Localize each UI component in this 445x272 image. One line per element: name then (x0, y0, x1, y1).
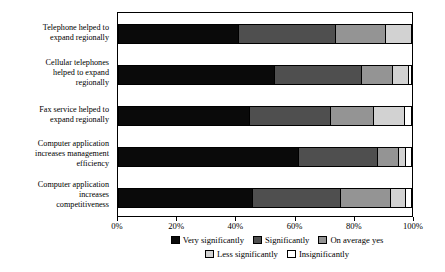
bar-segment (239, 24, 336, 44)
legend-swatch-icon (253, 236, 262, 244)
category-label-line: Cellular telephones (46, 58, 109, 67)
legend-swatch-icon (171, 236, 180, 244)
stacked-bar-chart: Telephone helped to expand regionally Ce… (0, 0, 445, 272)
legend-row-primary: Very significantlySignificantlyOn averag… (117, 233, 437, 247)
bar-segment (250, 106, 331, 126)
stacked-bar (118, 106, 412, 126)
category-label-line: increases (79, 190, 109, 199)
category-label-line: competitiveness (56, 200, 109, 209)
bar-segment (299, 147, 378, 167)
plot-area (117, 12, 413, 217)
bar-row (118, 65, 412, 85)
stacked-bar (118, 24, 412, 44)
bar-segment (118, 188, 253, 208)
legend-item[interactable]: Significantly (253, 235, 309, 245)
category-label-line: Computer application (38, 180, 109, 189)
legend-label: Very significantly (183, 235, 244, 245)
bar-segment (362, 65, 393, 85)
bar-segment (118, 147, 299, 167)
x-axis-tick-label: 60% (287, 220, 303, 232)
stacked-bar (118, 65, 412, 85)
category-label-management-efficiency: Computer application increases managemen… (0, 139, 109, 170)
legend-label: Insignificantly (299, 249, 349, 259)
x-axis-tick-label: 100% (403, 220, 423, 232)
bar-segment (374, 106, 405, 126)
legend-item[interactable]: Less significantly (205, 249, 278, 259)
bar-segment (399, 147, 406, 167)
legend-label: Less significantly (217, 249, 278, 259)
bar-segment (393, 65, 409, 85)
category-label-line: expand regionally (50, 33, 109, 42)
category-label-line: Telephone helped to (43, 23, 109, 32)
bar-segment (341, 188, 391, 208)
legend-label: On average yes (330, 235, 383, 245)
x-axis-tick-label: 0% (111, 220, 122, 232)
legend-item[interactable]: On average yes (318, 235, 383, 245)
bar-segment (253, 188, 341, 208)
legend-swatch-icon (318, 236, 327, 244)
x-axis-tick-labels: 0%20%40%60%80%100% (117, 220, 413, 234)
category-label-line: Fax service helped to (39, 105, 109, 114)
category-label-line: expand regionally (50, 115, 109, 124)
bar-segment (118, 106, 250, 126)
bar-segment (118, 24, 239, 44)
bar-row (118, 188, 412, 208)
category-label-cellular: Cellular telephones helped to expand reg… (0, 58, 109, 89)
x-axis-tick-label: 20% (168, 220, 184, 232)
bar-segment (406, 147, 412, 167)
bar-segment (386, 24, 412, 44)
bar-segment (275, 65, 362, 85)
bar-segment (331, 106, 374, 126)
category-label-line: helped to expand (53, 68, 109, 77)
legend-label: Significantly (265, 235, 309, 245)
legend-swatch-icon (287, 250, 296, 258)
bar-segment (336, 24, 386, 44)
category-label-fax: Fax service helped to expand regionally (0, 105, 109, 125)
x-axis-tick-label: 80% (346, 220, 362, 232)
category-label-competitiveness: Computer application increases competiti… (0, 180, 109, 211)
x-axis-tick-label: 40% (228, 220, 244, 232)
category-label-line: efficiency (76, 159, 109, 168)
legend-item[interactable]: Very significantly (171, 235, 244, 245)
bar-segment (405, 106, 412, 126)
legend-item[interactable]: Insignificantly (287, 249, 349, 259)
category-label-line: Computer application (38, 139, 109, 148)
stacked-bar (118, 147, 412, 167)
category-label-line: regionally (76, 78, 109, 87)
bar-segment (409, 65, 412, 85)
legend-swatch-icon (205, 250, 214, 258)
bar-segment (391, 188, 406, 208)
category-label-telephone: Telephone helped to expand regionally (0, 23, 109, 43)
chart-legend: Very significantlySignificantlyOn averag… (117, 233, 437, 261)
category-label-line: increases management (35, 149, 109, 158)
bar-row (118, 147, 412, 167)
bar-row (118, 24, 412, 44)
legend-row-secondary: Less significantlyInsignificantly (117, 247, 437, 261)
bar-row (118, 106, 412, 126)
bar-segment (378, 147, 399, 167)
bar-segment (406, 188, 412, 208)
stacked-bar (118, 188, 412, 208)
category-axis-labels: Telephone helped to expand regionally Ce… (0, 12, 113, 217)
bar-segment (118, 65, 275, 85)
